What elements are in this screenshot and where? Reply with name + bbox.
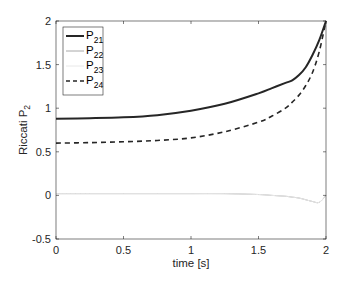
y-tick-label: -0.5: [32, 233, 51, 245]
x-tick-label: 0.5: [116, 244, 131, 256]
x-tick-label: 2: [323, 244, 329, 256]
x-tick-label: 1: [188, 244, 194, 256]
x-axis-label: time [s]: [172, 257, 209, 269]
y-tick-label: 2: [45, 15, 51, 27]
x-tick-label: 1.5: [251, 244, 266, 256]
y-tick-label: 1: [45, 102, 51, 114]
legend: P21P22P23P24: [63, 27, 103, 95]
line-chart: 00.511.52 -0.500.511.52 time [s] Riccati…: [0, 0, 347, 283]
x-tick-label: 0: [53, 244, 59, 256]
y-tick-label: 1.5: [36, 59, 51, 71]
y-axis-label: Riccati P2: [17, 105, 32, 155]
y-tick-label: 0: [45, 189, 51, 201]
y-tick-label: 0.5: [36, 146, 51, 158]
